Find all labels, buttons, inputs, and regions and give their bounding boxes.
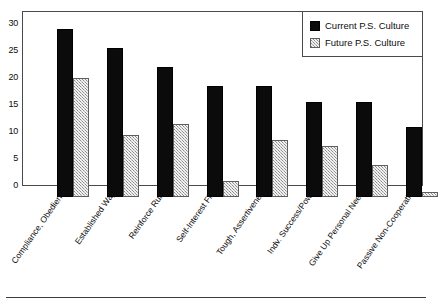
legend-item-future: Future P.S. Culture — [310, 34, 422, 51]
y-axis: 051015202530 — [0, 11, 20, 186]
bar-current[interactable] — [157, 67, 173, 197]
y-tick-label: 25 — [8, 46, 18, 55]
y-tick-label: 30 — [8, 19, 18, 28]
bar-current[interactable] — [107, 48, 123, 197]
x-axis-label: Indv. Success/Power — [266, 186, 319, 256]
x-axis-label: Self-Interest First — [174, 186, 218, 244]
bar-current[interactable] — [356, 102, 372, 197]
x-axis-label: Passive Non-Cooperation — [356, 186, 419, 271]
legend-swatch-future-icon — [310, 38, 320, 48]
bar-future[interactable] — [73, 78, 89, 197]
bar-current[interactable] — [306, 102, 322, 197]
x-axis-category-labels: Compliance, ObedienceEstablished WaysRei… — [0, 186, 432, 284]
x-axis-label: Give Up Personal Needs — [308, 186, 369, 268]
bar-group — [57, 24, 89, 197]
bar-current[interactable] — [256, 86, 272, 197]
legend-label-future: Future P.S. Culture — [325, 38, 405, 48]
bar-group — [207, 24, 239, 197]
legend-swatch-current-icon — [310, 21, 320, 31]
bar-current[interactable] — [57, 29, 73, 197]
footer-divider — [6, 297, 426, 298]
bar-group — [256, 24, 288, 197]
x-axis-label: Established Ways — [73, 186, 119, 246]
legend-label-current: Current P.S. Culture — [325, 21, 409, 31]
y-tick-label: 10 — [8, 127, 18, 136]
legend-item-current: Current P.S. Culture — [310, 17, 422, 34]
bar-current[interactable] — [207, 86, 223, 197]
bar-group — [107, 24, 139, 197]
y-tick-label: 20 — [8, 73, 18, 82]
x-axis-label: Compliance, Obedience — [10, 186, 69, 265]
y-tick-label: 15 — [8, 100, 18, 109]
chart-legend: Current P.S. Culture Future P.S. Culture — [302, 11, 423, 57]
x-axis-label: Reinforce Rules — [127, 186, 169, 241]
bar-group — [157, 24, 189, 197]
y-tick-label: 5 — [13, 154, 18, 163]
x-axis-label: Tough, Assertiveness — [215, 186, 268, 257]
